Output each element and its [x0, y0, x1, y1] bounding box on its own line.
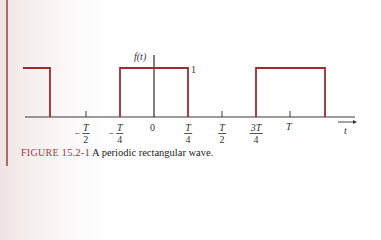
tick-label-period: T — [286, 122, 292, 132]
tick-label-neg-half-period: − T2 — [74, 123, 89, 145]
tick-label-half-period: T2 — [218, 123, 226, 145]
tick-label-three-quarter-period: 3T4 — [250, 123, 263, 145]
pulse-right — [256, 68, 325, 117]
pulse-train — [23, 68, 325, 117]
figure-caption: FIGURE 15.2-1 A periodic rectangular wav… — [21, 146, 213, 158]
arrowhead-icon — [353, 120, 357, 124]
tick-label-zero: 0 — [150, 123, 155, 133]
caption-figure-word: FIGURE — [21, 147, 59, 158]
amplitude-label: 1 — [191, 65, 196, 75]
pulse-left-partial — [23, 68, 50, 117]
caption-figure-number: 15.2-1 — [62, 146, 90, 158]
tick-label-neg-quarter-period: − T4 — [108, 123, 123, 145]
tick-label-quarter-period: T4 — [184, 123, 192, 145]
caption-text: A periodic rectangular wave. — [92, 147, 213, 158]
time-axis-label: t — [344, 126, 347, 136]
function-label: f(t) — [134, 52, 146, 62]
